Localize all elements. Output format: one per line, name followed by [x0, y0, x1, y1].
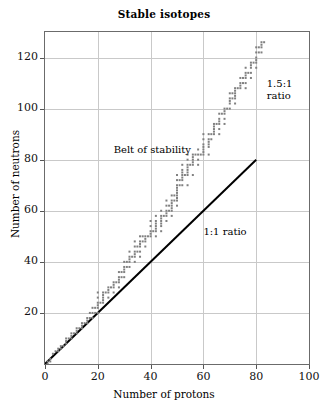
data-point — [160, 223, 162, 225]
data-point — [255, 59, 257, 61]
data-point — [155, 225, 157, 227]
x-tick-mark — [98, 365, 99, 369]
data-point — [139, 240, 141, 242]
data-point — [213, 131, 215, 133]
data-point — [176, 179, 178, 181]
data-point — [57, 348, 59, 350]
data-point — [208, 154, 210, 156]
data-point — [229, 92, 231, 94]
data-point — [107, 289, 109, 291]
data-point — [89, 317, 91, 319]
data-point — [247, 72, 249, 74]
data-point — [165, 200, 167, 202]
data-point — [92, 312, 94, 314]
data-point — [86, 320, 88, 322]
x-tick-mark — [45, 365, 46, 369]
data-point — [242, 82, 244, 84]
data-point — [226, 108, 228, 110]
data-point — [123, 261, 125, 263]
data-point — [234, 103, 236, 105]
data-point — [231, 97, 233, 99]
data-point — [171, 210, 173, 212]
data-point — [134, 246, 136, 248]
data-point — [144, 240, 146, 242]
data-point — [155, 223, 157, 225]
data-point — [187, 166, 189, 168]
x-tick-mark — [309, 365, 310, 369]
data-point — [139, 243, 141, 245]
data-point — [144, 246, 146, 248]
y-tick-mark — [40, 109, 44, 110]
data-point — [181, 174, 183, 176]
data-point — [176, 197, 178, 199]
data-point — [229, 97, 231, 99]
data-point — [110, 286, 112, 288]
data-point — [258, 51, 260, 53]
data-point — [81, 325, 83, 327]
data-point — [134, 251, 136, 253]
data-point — [86, 317, 88, 319]
data-point — [155, 215, 157, 217]
data-point — [165, 205, 167, 207]
data-point — [139, 251, 141, 253]
data-point — [78, 327, 80, 329]
y-tick-mark — [40, 313, 44, 314]
data-point — [150, 233, 152, 235]
data-point — [168, 205, 170, 207]
data-point — [65, 340, 67, 342]
data-point — [229, 103, 231, 105]
data-point — [134, 240, 136, 242]
data-point — [126, 261, 128, 263]
data-point — [86, 322, 88, 324]
data-point — [118, 271, 120, 273]
data-point — [239, 77, 241, 79]
data-point — [208, 138, 210, 140]
data-point — [97, 307, 99, 309]
data-point — [224, 118, 226, 120]
data-point — [126, 266, 128, 268]
data-point — [253, 62, 255, 64]
data-point — [173, 200, 175, 202]
data-point — [234, 90, 236, 92]
data-point — [144, 238, 146, 240]
data-point — [144, 235, 146, 237]
data-point — [134, 261, 136, 263]
data-point — [213, 123, 215, 125]
data-point — [150, 220, 152, 222]
data-point — [239, 82, 241, 84]
data-point — [202, 133, 204, 135]
x-tick-label: 100 — [289, 370, 328, 383]
annotation-belt-of-stability: Belt of stability — [114, 144, 191, 157]
x-tick-label: 40 — [131, 370, 171, 383]
data-point — [73, 332, 75, 334]
data-point — [245, 87, 247, 89]
data-point — [76, 332, 78, 334]
stable-isotopes-figure: Stable isotopes 020406080100204060801001… — [0, 0, 328, 413]
data-point — [163, 215, 165, 217]
data-point — [179, 179, 181, 181]
data-point — [258, 46, 260, 48]
data-point — [128, 261, 130, 263]
data-point — [155, 230, 157, 232]
data-point — [189, 164, 191, 166]
data-point — [155, 235, 157, 237]
data-point — [139, 235, 141, 237]
data-point — [102, 302, 104, 304]
data-point — [142, 235, 144, 237]
data-point — [97, 304, 99, 306]
data-point — [187, 171, 189, 173]
data-point — [187, 184, 189, 186]
data-point — [65, 343, 67, 345]
scatter-series — [47, 41, 265, 364]
x-tick-mark — [151, 365, 152, 369]
data-point — [89, 312, 91, 314]
data-point — [171, 207, 173, 209]
data-point — [94, 307, 96, 309]
data-point — [176, 189, 178, 191]
data-point — [184, 174, 186, 176]
data-point — [142, 240, 144, 242]
data-point — [260, 44, 262, 46]
data-point — [181, 164, 183, 166]
data-point — [176, 184, 178, 186]
data-point — [81, 327, 83, 329]
